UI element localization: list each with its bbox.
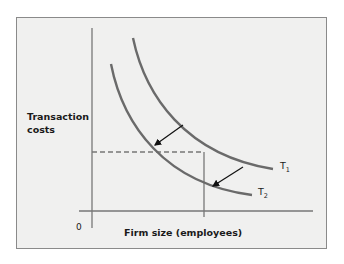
y-axis-label-line2: costs: [27, 123, 89, 136]
y-axis-label-line1: Transaction: [27, 110, 89, 123]
shift-arrow-lower: [213, 167, 243, 186]
shift-arrow-upper: [155, 125, 183, 145]
curve-label-t1: T1: [280, 160, 290, 174]
origin-label: 0: [76, 222, 82, 232]
y-axis-label: Transaction costs: [27, 110, 89, 136]
curve-label-t2: T2: [258, 186, 268, 200]
curve-label-t1-subscript: 1: [286, 166, 290, 174]
x-axis-label: Firm size (employees): [124, 227, 242, 238]
curve-label-t2-subscript: 2: [264, 192, 268, 200]
